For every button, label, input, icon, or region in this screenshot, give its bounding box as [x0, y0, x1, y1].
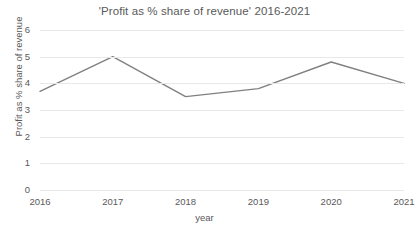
y-tick-label: 6: [10, 25, 30, 35]
y-gridline: [40, 190, 404, 191]
y-gridline: [40, 30, 404, 31]
y-gridline: [40, 57, 404, 58]
y-tick-label: 0: [10, 185, 30, 195]
y-tick-label: 5: [10, 52, 30, 62]
y-tick-label: 3: [10, 105, 30, 115]
plot-area: 0123456: [40, 30, 404, 190]
x-tick-label: 2019: [228, 196, 288, 207]
y-gridline: [40, 110, 404, 111]
y-tick-label: 4: [10, 78, 30, 88]
x-tick-label: 2016: [10, 196, 70, 207]
x-tick-label: 2020: [301, 196, 361, 207]
y-tick-label: 2: [10, 132, 30, 142]
x-axis-title: year: [0, 212, 409, 223]
x-tick-label: 2017: [83, 196, 143, 207]
x-tick-label: 2018: [156, 196, 216, 207]
y-gridline: [40, 83, 404, 84]
y-gridline: [40, 163, 404, 164]
chart-title: 'Profit as % share of revenue' 2016-2021: [0, 5, 409, 17]
y-tick-label: 1: [10, 158, 30, 168]
y-gridline: [40, 137, 404, 138]
x-tick-label: 2021: [374, 196, 419, 207]
